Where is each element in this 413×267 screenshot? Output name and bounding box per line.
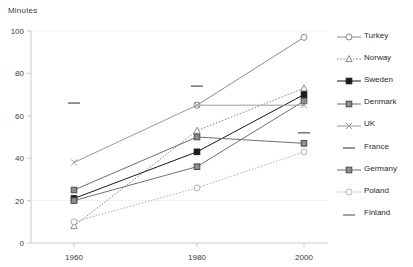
svg-text:1980: 1980 xyxy=(188,253,206,262)
dash-icon xyxy=(336,140,362,152)
legend-item-germany[interactable]: Germany xyxy=(336,157,413,179)
legend-item-turkey[interactable]: Turkey xyxy=(336,24,413,46)
chart-page: Minutes 020406080100196019802000 TurkeyN… xyxy=(0,0,413,267)
cross-icon xyxy=(336,118,362,130)
chart-series-layer xyxy=(68,34,310,228)
legend-item-poland[interactable]: Poland xyxy=(336,179,413,201)
dash-icon xyxy=(336,207,362,219)
legend-item-uk[interactable]: UK xyxy=(336,113,413,135)
legend-label: UK xyxy=(362,119,375,128)
chart-axes xyxy=(27,31,328,247)
svg-text:100: 100 xyxy=(11,27,25,36)
chart-tick-labels: 020406080100196019802000 xyxy=(11,27,314,262)
legend-label: Poland xyxy=(362,186,389,195)
open-circle-icon xyxy=(336,29,362,41)
filled-square-icon xyxy=(336,73,362,85)
legend-item-france[interactable]: France xyxy=(336,135,413,157)
svg-text:60: 60 xyxy=(15,112,24,121)
legend-label: France xyxy=(362,142,389,151)
legend-label: Finland xyxy=(362,208,390,217)
svg-text:80: 80 xyxy=(15,69,24,78)
legend-item-sweden[interactable]: Sweden xyxy=(336,68,413,90)
svg-text:2000: 2000 xyxy=(295,253,313,262)
open-circle-icon xyxy=(336,184,362,196)
legend-label: Turkey xyxy=(362,31,388,40)
svg-text:20: 20 xyxy=(15,197,24,206)
open-triangle-icon xyxy=(336,51,362,63)
legend-item-finland[interactable]: Finland xyxy=(336,202,413,224)
svg-text:1960: 1960 xyxy=(65,253,83,262)
legend-label: Sweden xyxy=(362,75,393,84)
legend-item-norway[interactable]: Norway xyxy=(336,46,413,68)
svg-text:40: 40 xyxy=(15,154,24,163)
legend-label: Germany xyxy=(362,164,397,173)
legend-item-denmark[interactable]: Denmark xyxy=(336,91,413,113)
chart-legend: TurkeyNorwaySwedenDenmarkUKFranceGermany… xyxy=(336,24,413,224)
gray-square-icon xyxy=(336,162,362,174)
gray-square-icon xyxy=(336,96,362,108)
legend-label: Norway xyxy=(362,53,391,62)
legend-label: Denmark xyxy=(362,97,396,106)
svg-text:0: 0 xyxy=(20,239,25,248)
